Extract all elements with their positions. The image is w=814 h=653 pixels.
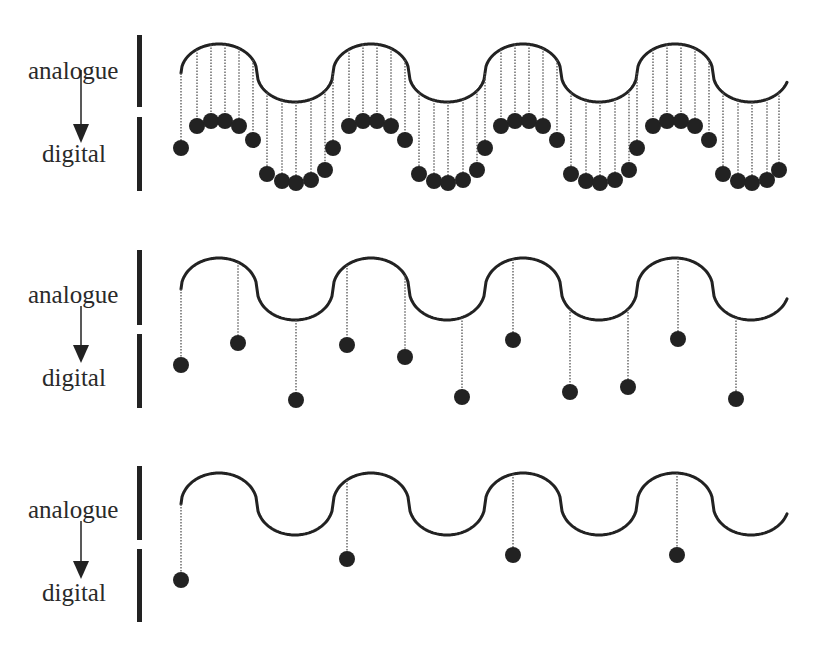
digital-sample-dot xyxy=(505,332,521,348)
digital-sample-dot xyxy=(669,547,685,563)
digital-sample-dot xyxy=(245,132,261,148)
digital-sample-dot xyxy=(645,118,661,134)
digital-sample-dot xyxy=(493,118,509,134)
digital-sample-dot xyxy=(505,547,521,563)
digital-sample-dot xyxy=(469,162,485,178)
digital-sample-dot xyxy=(440,175,456,191)
digital-sample-dot xyxy=(217,113,233,129)
digital-sample-dot xyxy=(592,175,608,191)
digital-sample-dot xyxy=(562,384,578,400)
digital-sample-dot xyxy=(397,132,413,148)
digital-sample-dot xyxy=(455,172,471,188)
digital-sample-dot xyxy=(231,118,247,134)
digital-sample-dot xyxy=(730,173,746,189)
digital-sample-dot xyxy=(670,331,686,347)
digital-sample-dot xyxy=(426,173,442,189)
digital-sample-dot xyxy=(173,140,189,156)
digital-sample-dot xyxy=(317,162,333,178)
arrow-down-icon xyxy=(73,306,89,363)
diagram-canvas xyxy=(0,0,814,653)
digital-sample-dot xyxy=(173,572,189,588)
digital-sample-dot xyxy=(274,173,290,189)
digital-sample-dot xyxy=(288,392,304,408)
digital-sample-dot xyxy=(341,118,357,134)
arrow-down-icon xyxy=(73,521,89,579)
analogue-wave xyxy=(181,44,787,102)
digital-sample-dot xyxy=(173,357,189,373)
digital-sample-dot xyxy=(673,113,689,129)
digital-sample-dot xyxy=(288,175,304,191)
digital-sample-dot xyxy=(230,335,246,351)
digital-sample-dot xyxy=(189,118,205,134)
digital-sample-dot xyxy=(507,113,523,129)
digital-sample-dot xyxy=(411,166,427,182)
analogue-wave xyxy=(181,258,787,320)
digital-sample-dot xyxy=(621,162,637,178)
digital-sample-dot xyxy=(771,162,787,178)
digital-sample-dot xyxy=(578,173,594,189)
digital-sample-dot xyxy=(620,379,636,395)
digital-sample-dot xyxy=(744,175,760,191)
digital-sample-dot xyxy=(369,113,385,129)
digital-sample-dot xyxy=(339,337,355,353)
digital-sample-dot xyxy=(607,172,623,188)
digital-sample-dot xyxy=(325,140,341,156)
digital-sample-dot xyxy=(728,391,744,407)
digital-sample-dot xyxy=(454,389,470,405)
digital-sample-dot xyxy=(549,132,565,148)
digital-sample-dot xyxy=(715,166,731,182)
digital-sample-dot xyxy=(629,140,645,156)
digital-sample-dot xyxy=(701,132,717,148)
digital-sample-dot xyxy=(521,113,537,129)
digital-sample-dot xyxy=(535,118,551,134)
digital-sample-dot xyxy=(397,349,413,365)
arrow-down-icon xyxy=(73,70,89,143)
analogue-wave xyxy=(181,473,787,535)
digital-sample-dot xyxy=(303,172,319,188)
digital-sample-dot xyxy=(339,551,355,567)
digital-sample-dot xyxy=(355,113,371,129)
digital-sample-dot xyxy=(203,113,219,129)
digital-sample-dot xyxy=(383,118,399,134)
digital-sample-dot xyxy=(659,113,675,129)
digital-sample-dot xyxy=(563,166,579,182)
digital-sample-dot xyxy=(259,166,275,182)
digital-sample-dot xyxy=(687,118,703,134)
digital-sample-dot xyxy=(477,140,493,156)
